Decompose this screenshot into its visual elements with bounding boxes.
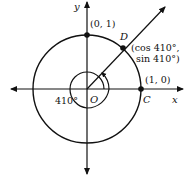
point-top-label: (0, 1) [90, 18, 116, 29]
unit-circle-diagram: y x O (0, 1) D (cos 410°, sin 410°) (1, … [0, 0, 189, 175]
point-0-1 [84, 32, 90, 38]
point-D-name: D [119, 31, 128, 42]
point-D-coord-line2: sin 410°) [136, 53, 180, 64]
point-D [120, 45, 126, 51]
origin-label: O [90, 94, 98, 105]
point-C-name: C [143, 94, 151, 105]
point-C-coord: (1, 0) [145, 74, 171, 85]
x-axis-label: x [172, 94, 178, 105]
point-C [138, 86, 144, 92]
y-axis-label: y [73, 1, 80, 12]
angle-label: 410° [55, 95, 78, 106]
point-D-coord-line1: (cos 410°, [131, 42, 180, 53]
